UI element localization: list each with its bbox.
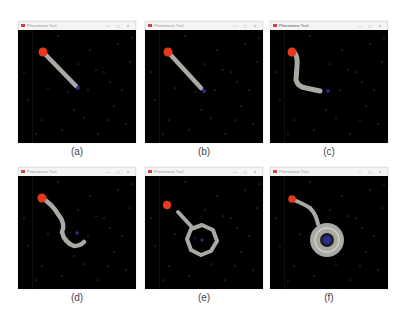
close-button[interactable]: ×	[250, 168, 260, 176]
window-title: Pheromone Trail	[154, 22, 183, 30]
window-title: Pheromone Trail	[279, 168, 308, 176]
window-titlebar[interactable]: Pheromone Trail – □ ×	[18, 21, 136, 30]
window-titlebar[interactable]: Pheromone Trail – □ ×	[145, 167, 263, 176]
window-titlebar[interactable]: Pheromone Trail – □ ×	[270, 21, 388, 30]
simulation-canvas	[145, 176, 263, 289]
nest	[76, 86, 80, 90]
close-button[interactable]: ×	[250, 22, 260, 30]
panel-caption-a: (a)	[18, 146, 136, 157]
window-title: Pheromone Trail	[154, 168, 183, 176]
food-source	[163, 201, 171, 209]
minimize-button[interactable]: –	[355, 168, 365, 176]
app-icon	[21, 170, 25, 173]
maximize-button[interactable]: □	[365, 168, 375, 176]
maximize-button[interactable]: □	[240, 22, 250, 30]
window-title: Pheromone Trail	[27, 22, 56, 30]
window-title: Pheromone Trail	[27, 168, 56, 176]
minimize-button[interactable]: –	[230, 168, 240, 176]
app-icon	[273, 24, 277, 27]
nest	[75, 231, 79, 235]
window-panel-f: Pheromone Trail – □ ×	[270, 167, 388, 289]
food-source	[288, 195, 296, 203]
window-panel-b: Pheromone Trail – □ ×	[145, 21, 263, 143]
window-panel-e: Pheromone Trail – □ ×	[145, 167, 263, 289]
panel-caption-f: (f)	[270, 292, 388, 303]
simulation-canvas	[270, 30, 388, 143]
window-panel-d: Pheromone Trail – □ ×	[18, 167, 136, 289]
maximize-button[interactable]: □	[113, 168, 123, 176]
minimize-button[interactable]: –	[103, 22, 113, 30]
nest	[200, 238, 203, 241]
nest	[202, 89, 206, 93]
food-source	[164, 48, 173, 57]
window-title: Pheromone Trail	[279, 22, 308, 30]
app-icon	[273, 170, 277, 173]
maximize-button[interactable]: □	[365, 22, 375, 30]
nest	[323, 236, 331, 244]
food-source	[39, 48, 48, 57]
food-source	[288, 48, 297, 57]
app-icon	[148, 170, 152, 173]
app-icon	[148, 24, 152, 27]
window-titlebar[interactable]: Pheromone Trail – □ ×	[270, 167, 388, 176]
window-titlebar[interactable]: Pheromone Trail – □ ×	[145, 21, 263, 30]
simulation-canvas	[145, 30, 263, 143]
maximize-button[interactable]: □	[240, 168, 250, 176]
close-button[interactable]: ×	[375, 22, 385, 30]
panel-caption-c: (c)	[270, 146, 388, 157]
minimize-button[interactable]: –	[103, 168, 113, 176]
close-button[interactable]: ×	[123, 22, 133, 30]
panel-caption-b: (b)	[145, 146, 263, 157]
window-panel-c: Pheromone Trail – □ ×	[270, 21, 388, 143]
food-source	[38, 194, 47, 203]
simulation-canvas	[18, 176, 136, 289]
window-panel-a: Pheromone Trail – □ ×	[18, 21, 136, 143]
nest	[326, 89, 330, 93]
window-titlebar[interactable]: Pheromone Trail – □ ×	[18, 167, 136, 176]
close-button[interactable]: ×	[375, 168, 385, 176]
panel-caption-d: (d)	[18, 292, 136, 303]
minimize-button[interactable]: –	[355, 22, 365, 30]
minimize-button[interactable]: –	[230, 22, 240, 30]
maximize-button[interactable]: □	[113, 22, 123, 30]
panel-caption-e: (e)	[145, 292, 263, 303]
simulation-canvas	[18, 30, 136, 143]
simulation-canvas	[270, 176, 388, 289]
close-button[interactable]: ×	[123, 168, 133, 176]
app-icon	[21, 24, 25, 27]
